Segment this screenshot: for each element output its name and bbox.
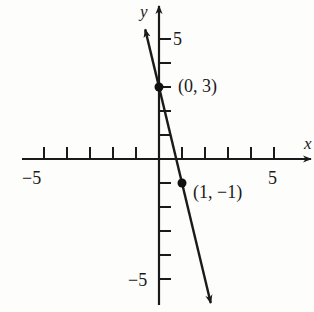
x-axis-label: x <box>303 134 312 153</box>
y-min-label: −5 <box>128 270 147 290</box>
coordinate-plane: y x −5 5 5 −5 (0, 3) (1, −1) <box>0 0 314 312</box>
x-max-label: 5 <box>268 168 277 188</box>
point-b-label: (1, −1) <box>193 182 242 203</box>
point-1-neg1 <box>178 179 187 188</box>
graph-canvas: y x −5 5 5 −5 (0, 3) (1, −1) <box>0 0 314 312</box>
x-min-label: −5 <box>22 168 41 188</box>
point-0-3 <box>155 83 164 92</box>
y-axis-label: y <box>138 2 148 21</box>
graphed-line <box>145 29 211 303</box>
point-a-label: (0, 3) <box>178 76 217 97</box>
y-max-label: 5 <box>173 29 182 49</box>
